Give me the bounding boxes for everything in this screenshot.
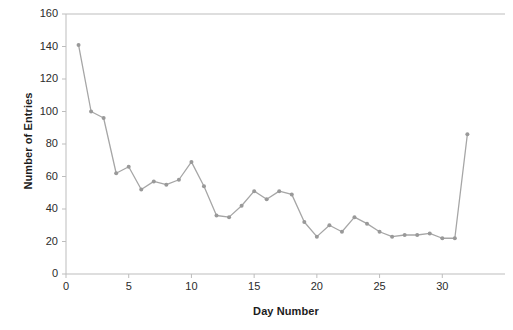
x-tick-label: 15 — [234, 281, 274, 292]
data-point-marker — [453, 236, 457, 240]
data-point-marker — [290, 192, 294, 196]
x-axis-title: Day Number — [66, 305, 506, 317]
x-tick-label: 10 — [171, 281, 211, 292]
x-axis-tick-labels: 051015202530 — [0, 281, 513, 301]
data-point-marker — [465, 132, 469, 136]
data-series-markers — [77, 43, 470, 240]
data-point-marker — [365, 222, 369, 226]
data-point-marker — [302, 220, 306, 224]
x-axis-tick-marks — [66, 274, 442, 278]
data-point-marker — [202, 184, 206, 188]
data-point-marker — [390, 235, 394, 239]
y-tick-label: 160 — [18, 8, 58, 19]
plot-frame — [66, 14, 505, 274]
y-axis-title: Number of Entries — [22, 51, 34, 231]
data-point-marker — [102, 116, 106, 120]
chart-figure: 020406080100120140160 051015202530 Numbe… — [0, 0, 513, 330]
x-tick-label: 5 — [109, 281, 149, 292]
y-tick-label: 0 — [18, 268, 58, 279]
x-tick-label: 20 — [297, 281, 337, 292]
x-tick-label: 0 — [46, 281, 86, 292]
data-point-marker — [164, 183, 168, 187]
data-point-marker — [127, 165, 131, 169]
data-point-marker — [177, 178, 181, 182]
x-tick-label: 25 — [360, 281, 400, 292]
x-tick-label: 30 — [422, 281, 462, 292]
data-point-marker — [315, 235, 319, 239]
data-point-marker — [277, 189, 281, 193]
data-point-marker — [252, 189, 256, 193]
data-point-marker — [415, 233, 419, 237]
data-point-marker — [403, 233, 407, 237]
y-tick-label: 20 — [18, 236, 58, 247]
data-point-marker — [327, 223, 331, 227]
data-point-marker — [89, 110, 93, 114]
data-point-marker — [428, 231, 432, 235]
data-point-marker — [378, 230, 382, 234]
data-series-line — [79, 45, 468, 238]
data-point-marker — [440, 236, 444, 240]
data-point-marker — [152, 179, 156, 183]
data-point-marker — [114, 171, 118, 175]
data-point-marker — [189, 160, 193, 164]
data-point-marker — [265, 197, 269, 201]
data-point-marker — [340, 230, 344, 234]
data-point-marker — [352, 215, 356, 219]
data-point-marker — [77, 43, 81, 47]
data-point-marker — [139, 188, 143, 192]
data-point-marker — [240, 204, 244, 208]
y-axis-tick-marks — [62, 14, 66, 274]
y-tick-label: 140 — [18, 41, 58, 52]
data-point-marker — [227, 215, 231, 219]
data-point-marker — [215, 214, 219, 218]
